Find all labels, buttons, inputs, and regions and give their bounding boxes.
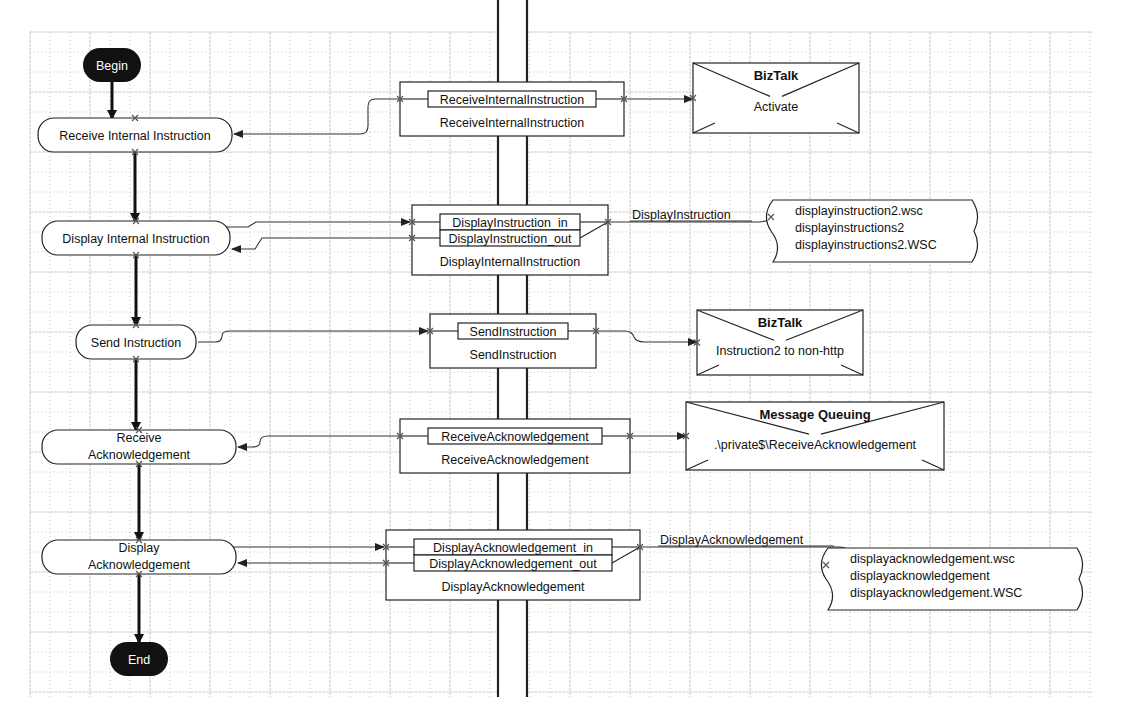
implementation-title: Message Queuing	[759, 407, 870, 422]
script-detail-line: displayacknowledgement	[850, 569, 990, 583]
message-label: ReceiveAcknowledgement	[441, 430, 589, 444]
port-title: DisplayInternalInstruction	[440, 255, 580, 269]
action-label-line2: Acknowledgement	[88, 448, 191, 462]
port-receive-acknowledgement-port[interactable]: ReceiveAcknowledgementReceiveAcknowledge…	[397, 419, 633, 473]
implementation-script-display-instruction[interactable]: displayinstruction2.wscdisplayinstructio…	[766, 200, 977, 262]
port-title: DisplayAcknowledgement	[441, 580, 585, 594]
script-detail-line: displayacknowledgement.WSC	[850, 586, 1022, 600]
implementation-shapes: BizTalkActivateBizTalkInstruction2 to no…	[683, 63, 1083, 610]
implementation-subtitle: .\private$\ReceiveAcknowledgement	[714, 438, 917, 452]
action-receive-internal-instruction[interactable]: Receive Internal Instruction	[38, 115, 232, 155]
link-send-instruction	[198, 331, 428, 342]
action-label: Display Internal Instruction	[62, 232, 209, 246]
action-receive-acknowledgement[interactable]: ReceiveAcknowledgement	[42, 427, 236, 467]
link-display-instruction-in	[226, 222, 410, 227]
terminal-begin[interactable]: Begin	[83, 48, 141, 82]
link-display-ack-script	[640, 547, 848, 558]
action-display-acknowledgement[interactable]: DisplayAcknowledgement	[42, 537, 236, 577]
port-send-instruction-port[interactable]: SendInstructionSendInstruction	[427, 314, 599, 368]
action-label: Receive Internal Instruction	[59, 129, 211, 143]
port-title: ReceiveAcknowledgement	[441, 453, 589, 467]
action-label: Send Instruction	[91, 336, 181, 350]
link-label-display-instruction: DisplayInstruction	[632, 208, 731, 222]
orchestration-canvas[interactable]: DisplayInstructionDisplayAcknowledgement…	[0, 0, 1122, 728]
port-display-acknowledgement-port[interactable]: DisplayAcknowledgement_inDisplayAcknowle…	[383, 530, 643, 600]
implementation-subtitle: Instruction2 to non-http	[716, 344, 844, 358]
port-display-internal-instruction-port[interactable]: DisplayInstruction_inDisplayInstruction_…	[409, 205, 611, 275]
link-display-instruction-out	[232, 238, 412, 249]
action-shapes: Receive Internal InstructionDisplay Inte…	[38, 115, 236, 577]
action-send-instruction[interactable]: Send Instruction	[76, 322, 196, 362]
message-label: DisplayAcknowledgement_out	[429, 557, 597, 571]
port-title: SendInstruction	[470, 348, 557, 362]
script-detail-line: displayinstructions2.WSC	[795, 238, 937, 252]
link-label-display-acknowledgement: DisplayAcknowledgement	[660, 533, 804, 547]
script-detail-line: displayinstruction2.wsc	[795, 204, 923, 218]
action-display-internal-instruction[interactable]: Display Internal Instruction	[42, 218, 230, 258]
terminal-end[interactable]: End	[110, 642, 168, 676]
implementation-biztalk-activate[interactable]: BizTalkActivate	[690, 63, 859, 133]
script-detail-line: displayinstructions2	[795, 221, 904, 235]
message-label: ReceiveInternalInstruction	[440, 93, 585, 107]
port-receive-internal-instruction-port[interactable]: ReceiveInternalInstructionReceiveInterna…	[397, 82, 627, 136]
implementation-biztalk-instruction2[interactable]: BizTalkInstruction2 to non-http	[694, 310, 863, 375]
terminal-begin-label: Begin	[96, 59, 128, 73]
message-label: DisplayInstruction_in	[452, 216, 567, 230]
implementation-script-display-ack[interactable]: displayacknowledgement.wscdisplayacknowl…	[821, 548, 1082, 610]
link-biztalk-instruction2	[596, 331, 697, 342]
link-receive-instruction	[234, 99, 400, 134]
message-label: SendInstruction	[470, 325, 557, 339]
implementation-title: BizTalk	[758, 315, 803, 330]
action-label-line1: Receive	[116, 431, 161, 445]
port-title: ReceiveInternalInstruction	[440, 116, 585, 130]
implementation-msmq-receive-ack[interactable]: Message Queuing.\private$\ReceiveAcknowl…	[683, 402, 944, 470]
link-receive-acknowledgement	[238, 436, 400, 447]
message-label: DisplayAcknowledgement_in	[433, 541, 593, 555]
message-label: DisplayInstruction_out	[449, 232, 573, 246]
action-label-line1: Display	[119, 541, 161, 555]
script-detail-line: displayacknowledgement.wsc	[850, 552, 1015, 566]
terminal-end-label: End	[128, 653, 150, 667]
action-label-line2: Acknowledgement	[88, 558, 191, 572]
implementation-title: BizTalk	[754, 68, 799, 83]
implementation-subtitle: Activate	[754, 100, 799, 114]
